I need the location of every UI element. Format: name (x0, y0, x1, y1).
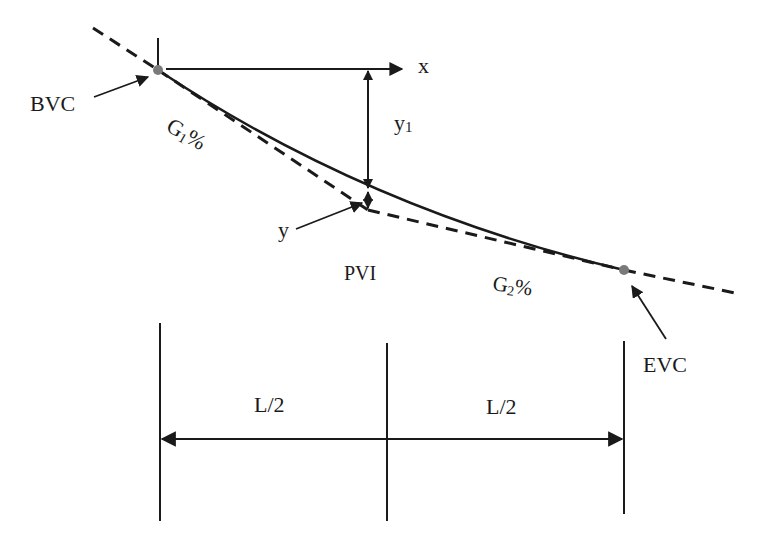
evc-pointer-arrow (632, 286, 666, 339)
grade-g1-label: G1% (162, 113, 211, 156)
half-length-left-label: L/2 (254, 392, 285, 417)
bvc-label: BVC (30, 91, 75, 116)
pvi-label: PVI (344, 262, 376, 284)
grade-g2-label: G2% (491, 271, 534, 301)
y1-label: y1 (394, 110, 413, 135)
vertical-curve-diagram: BVC x y1 y PVI G1% G2% EVC L/2 L/2 (0, 0, 763, 548)
y1-label-sub: 1 (405, 119, 413, 135)
vertical-curve-line (158, 70, 624, 270)
bvc-pointer-arrow (94, 77, 148, 97)
half-length-right-label: L/2 (486, 394, 517, 419)
y-pointer-arrow (296, 203, 362, 229)
g1-pct: % (182, 124, 210, 155)
bvc-point (153, 65, 163, 75)
y-offset-label: y (278, 217, 289, 242)
departure-tangent-line (624, 270, 740, 294)
y1-label-main: y (394, 110, 405, 135)
g2-pct: % (513, 274, 534, 300)
approach-tangent-line (93, 28, 158, 70)
x-axis-label: x (418, 53, 429, 78)
evc-label: EVC (643, 352, 687, 377)
tangent-lines (93, 28, 740, 294)
evc-point (619, 265, 629, 275)
